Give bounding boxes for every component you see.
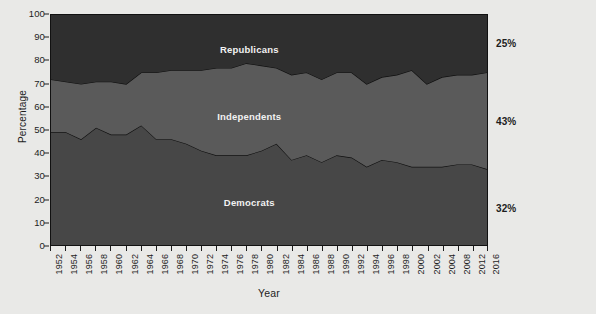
x-axis-tick-label: 1960 (114, 254, 124, 274)
x-axis-tick-label: 1964 (145, 254, 155, 274)
y-axis-tick-label: 70 (5, 79, 45, 89)
end-label-independents: 43% (496, 115, 516, 126)
x-axis-tick-label: 1970 (190, 254, 200, 274)
y-axis-tick-mark (44, 130, 49, 131)
y-axis-tick-label: 80 (5, 56, 45, 66)
x-axis-tick-mark (80, 246, 81, 251)
x-axis-tick-mark (367, 246, 368, 251)
series-label-republicans: Republicans (220, 43, 279, 54)
x-axis-tick-label: 1992 (356, 254, 366, 274)
x-axis-tick-label: 1988 (326, 254, 336, 274)
y-axis-tick-mark (44, 153, 49, 154)
x-axis-tick-label: 1954 (69, 254, 79, 274)
x-axis-tick-mark (458, 246, 459, 251)
x-axis-tick-label: 1952 (54, 254, 64, 274)
series-label-democrats: Democrats (224, 196, 275, 207)
y-axis-tick-mark (44, 176, 49, 177)
x-axis-tick-label: 1978 (250, 254, 260, 274)
end-label-republicans: 25% (496, 38, 516, 49)
x-axis-tick-mark (216, 246, 217, 251)
x-axis-tick-label: 1966 (160, 254, 170, 274)
x-axis-tick-mark (428, 246, 429, 251)
x-axis-tick-mark (352, 246, 353, 251)
y-axis-tick-label: 30 (5, 172, 45, 182)
x-axis-tick-mark (156, 246, 157, 251)
x-axis-tick-label: 2016 (491, 254, 501, 274)
x-axis-tick-mark (65, 246, 66, 251)
y-axis-tick-mark (44, 106, 49, 107)
x-axis-tick-mark (337, 246, 338, 251)
y-axis-tick-label: 20 (5, 195, 45, 205)
chart-figure: Percentage 0102030405060708090100 195219… (0, 0, 596, 314)
x-axis-tick-label: 2008 (462, 254, 472, 274)
x-axis-tick-label: 1982 (281, 254, 291, 274)
x-axis-tick-mark (307, 246, 308, 251)
x-axis-tick-label: 1958 (99, 254, 109, 274)
x-axis-tick-mark (231, 246, 232, 251)
y-axis-tick-mark (44, 199, 49, 200)
x-axis-tick-mark (443, 246, 444, 251)
x-axis-tick-mark (473, 246, 474, 251)
x-axis-tick-label: 1998 (401, 254, 411, 274)
y-axis-title: Percentage (17, 57, 28, 177)
x-axis-tick-mark (50, 246, 51, 251)
x-axis-tick-mark (246, 246, 247, 251)
x-axis-tick-label: 1972 (205, 254, 215, 274)
y-axis-tick-label: 60 (5, 102, 45, 112)
x-axis-tick-label: 1984 (296, 254, 306, 274)
y-axis-tick-label: 100 (5, 9, 45, 19)
series-label-independents: Independents (217, 111, 281, 122)
x-axis-tick-label: 1980 (265, 254, 275, 274)
x-axis-tick-mark (277, 246, 278, 251)
y-axis: Percentage 0102030405060708090100 (0, 0, 45, 314)
x-axis-tick-mark (141, 246, 142, 251)
x-axis-tick-label: 1994 (371, 254, 381, 274)
x-axis-tick-mark (487, 246, 488, 251)
y-axis-tick-mark (44, 246, 49, 247)
y-axis-tick-mark (44, 83, 49, 84)
y-axis-tick-label: 40 (5, 148, 45, 158)
x-axis-tick-label: 2012 (477, 254, 487, 274)
y-axis-tick-label: 90 (5, 32, 45, 42)
x-axis-tick-label: 1986 (311, 254, 321, 274)
end-label-democrats: 32% (496, 202, 516, 213)
x-axis-tick-mark (186, 246, 187, 251)
x-axis-tick-label: 2004 (447, 254, 457, 274)
x-axis-tick-mark (382, 246, 383, 251)
x-axis-tick-mark (412, 246, 413, 251)
x-axis-tick-mark (397, 246, 398, 251)
x-axis-tick-mark (110, 246, 111, 251)
x-axis-tick-label: 2002 (432, 254, 442, 274)
x-axis-tick-mark (201, 246, 202, 251)
y-axis-tick-label: 50 (5, 125, 45, 135)
x-axis-title: Year (50, 287, 488, 299)
x-axis-tick-mark (126, 246, 127, 251)
x-axis-tick-mark (322, 246, 323, 251)
y-axis-tick-mark (44, 60, 49, 61)
y-axis-tick-mark (44, 37, 49, 38)
x-axis-tick-label: 1968 (175, 254, 185, 274)
y-axis-tick-mark (44, 14, 49, 15)
x-axis-tick-mark (171, 246, 172, 251)
x-axis-tick-mark (261, 246, 262, 251)
x-axis-tick-mark (95, 246, 96, 251)
y-axis-tick-label: 0 (5, 241, 45, 251)
y-axis-tick-mark (44, 222, 49, 223)
x-axis-tick-label: 1996 (386, 254, 396, 274)
x-axis-tick-mark (292, 246, 293, 251)
x-axis-tick-label: 1962 (130, 254, 140, 274)
x-axis-tick-label: 1976 (235, 254, 245, 274)
x-axis-tick-label: 1974 (220, 254, 230, 274)
x-axis-tick-label: 2000 (416, 254, 426, 274)
x-axis-tick-label: 1990 (341, 254, 351, 274)
y-axis-tick-label: 10 (5, 218, 45, 228)
x-axis-tick-label: 1956 (84, 254, 94, 274)
